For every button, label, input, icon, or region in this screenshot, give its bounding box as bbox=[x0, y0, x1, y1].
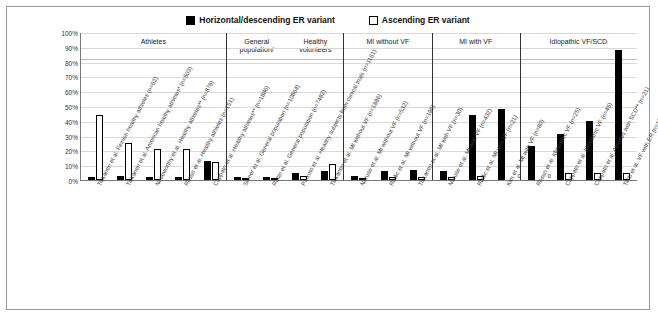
x-axis-label: Kim et al. MI with VF (n=80) bbox=[505, 184, 510, 187]
legend-swatch-white bbox=[369, 16, 378, 25]
bar-horizontal-descending[interactable] bbox=[410, 170, 417, 180]
x-axis-labels: Tikkanen et al. Finnish healthy athletes… bbox=[80, 182, 637, 302]
x-axis-label: Rudic et al. MI without VF (n=199) bbox=[388, 184, 393, 187]
bar-horizontal-descending[interactable] bbox=[204, 161, 211, 180]
legend-swatch-black bbox=[186, 16, 195, 25]
bar-group-3: 0 bbox=[432, 33, 520, 180]
x-axis-label: Rosso et al. Idiopathic VF (n=25) bbox=[535, 184, 540, 187]
y-axis-tick-label: 80% bbox=[65, 59, 78, 66]
bar-horizontal-descending[interactable] bbox=[440, 171, 447, 180]
x-axis-label: Rosso et al. Healthy athletes (n=151) bbox=[183, 184, 188, 187]
x-axis-label: Tikkanen et al. MI with VF (n=30) bbox=[417, 184, 422, 187]
chart-legend: Horizontal/descending ER variant Ascendi… bbox=[7, 15, 649, 25]
bar-horizontal-descending[interactable] bbox=[88, 177, 95, 180]
y-axis-tick-label: 30% bbox=[65, 133, 78, 140]
x-axis-label: Sinner et al. General population (n=1086… bbox=[242, 184, 247, 187]
x-axis-label: Rudic et al. MI with VF (n=21) bbox=[476, 184, 481, 187]
y-axis-tick-label: 20% bbox=[65, 148, 78, 155]
x-axis-label: Cappato et al. Athletes with SCD** (n=21… bbox=[593, 184, 598, 187]
x-axis-label: Rollin et al. General population (n=7482… bbox=[271, 184, 276, 187]
y-axis-tick-label: 100% bbox=[61, 30, 78, 37]
bar-horizontal-descending[interactable] bbox=[263, 177, 270, 180]
x-axis-label: Naruse et al. MI with VF (n=432) bbox=[447, 184, 452, 187]
x-axis-label: Tikkanen et al. Finnish healthy athletes… bbox=[96, 184, 101, 187]
bar-horizontal-descending[interactable] bbox=[292, 173, 299, 180]
x-axis-label: Paixoto et al. Healthy subjects from cli… bbox=[300, 184, 305, 187]
x-axis-label: Noseworthy et al. Healthy athletes** (n=… bbox=[154, 184, 159, 187]
bar-horizontal-descending[interactable] bbox=[117, 176, 124, 180]
y-axis-tick-label: 90% bbox=[65, 44, 78, 51]
bar-horizontal-descending[interactable] bbox=[175, 177, 182, 180]
x-axis-label: Tikkanen et al. American healthy athlete… bbox=[125, 184, 130, 187]
legend-item-ascending: Ascending ER variant bbox=[369, 15, 470, 25]
bar-horizontal-descending[interactable] bbox=[381, 171, 388, 180]
x-axis-label: Naruse et al. MI without VF (n=532) bbox=[359, 184, 364, 187]
bar-group-0 bbox=[81, 33, 226, 180]
bar-group-2 bbox=[343, 33, 431, 180]
y-axis-tick-label: 60% bbox=[65, 89, 78, 96]
y-axis-tick-label: 40% bbox=[65, 118, 78, 125]
x-axis-label: Cappato et al. Healthy athletes** (n=188… bbox=[212, 184, 217, 187]
chart-frame: Horizontal/descending ER variant Ascendi… bbox=[6, 6, 650, 310]
legend-item-horizontal-descending: Horizontal/descending ER variant bbox=[186, 15, 335, 25]
bar-horizontal-descending[interactable] bbox=[615, 50, 622, 180]
x-axis-label: Tikkanen et al. MI without VF (n=1886) bbox=[329, 184, 334, 187]
bar-pair[interactable] bbox=[81, 33, 110, 180]
legend-label-horizontal-descending: Horizontal/descending ER variant bbox=[199, 15, 335, 25]
bar-horizontal-descending[interactable] bbox=[146, 177, 153, 180]
y-axis-tick-label: 0% bbox=[69, 178, 78, 185]
x-axis-label: Talib et al. VF with ER (n=10) bbox=[622, 184, 627, 187]
y-axis-tick-label: 10% bbox=[65, 163, 78, 170]
bar-horizontal-descending[interactable] bbox=[351, 176, 358, 180]
legend-label-ascending: Ascending ER variant bbox=[382, 15, 470, 25]
bar-horizontal-descending[interactable] bbox=[321, 171, 328, 180]
y-axis-tick-label: 50% bbox=[65, 104, 78, 111]
x-axis-label: Cappato et al. Idiopathic VF (n=45) bbox=[564, 184, 569, 187]
bar-horizontal-descending[interactable] bbox=[234, 177, 241, 180]
y-axis-tick-label: 70% bbox=[65, 74, 78, 81]
